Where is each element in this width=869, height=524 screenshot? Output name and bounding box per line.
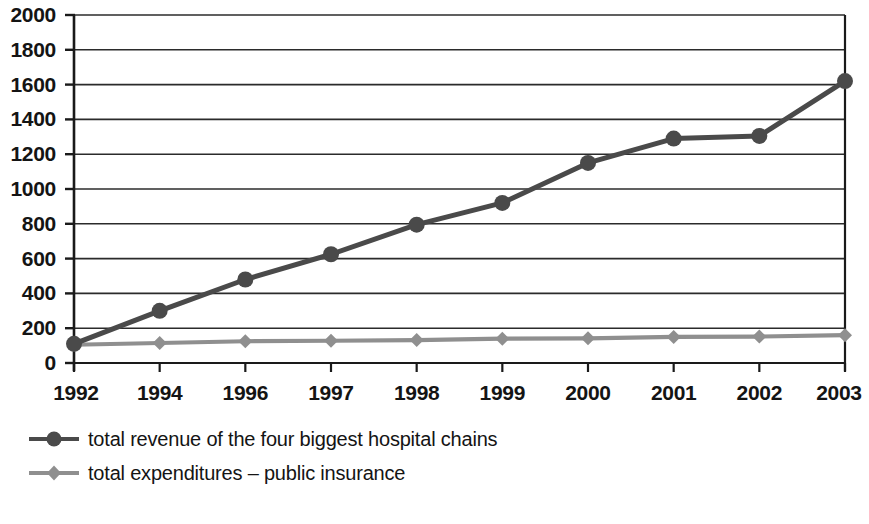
data-point xyxy=(237,271,253,287)
legend-marker-circle-icon xyxy=(28,426,80,452)
line-chart: 0200400600800100012001400160018002000 19… xyxy=(0,0,869,415)
data-point xyxy=(409,217,425,233)
x-tick-label: 1996 xyxy=(223,381,269,404)
y-tick-label: 1200 xyxy=(10,142,56,165)
data-point xyxy=(494,195,510,211)
chart-canvas: 0200400600800100012001400160018002000 19… xyxy=(0,0,869,415)
legend-item-revenue: total revenue of the four biggest hospit… xyxy=(0,424,869,454)
data-point xyxy=(837,73,853,89)
data-point xyxy=(751,128,767,144)
x-tick-label: 2001 xyxy=(651,381,697,404)
chart-page: 0200400600800100012001400160018002000 19… xyxy=(0,0,869,524)
x-axis-tick-labels: 1992199419961997199819992000200120022003 xyxy=(53,381,862,404)
y-tick-label: 400 xyxy=(22,281,56,304)
data-point xyxy=(66,336,82,352)
y-tick-label: 1400 xyxy=(10,107,56,130)
legend-label-revenue: total revenue of the four biggest hospit… xyxy=(88,428,497,451)
x-tick-label: 1992 xyxy=(53,381,99,404)
y-tick-label: 2000 xyxy=(10,3,56,26)
x-tick-label: 1997 xyxy=(308,381,354,404)
data-point xyxy=(666,131,682,147)
y-tick-label: 1000 xyxy=(10,177,56,200)
legend-marker-diamond-icon xyxy=(28,460,80,486)
x-tick-label: 2003 xyxy=(816,381,862,404)
data-point xyxy=(580,155,596,171)
y-tick-label: 0 xyxy=(45,351,56,374)
data-point xyxy=(152,303,168,319)
y-tick-label: 200 xyxy=(22,316,56,339)
legend-item-expenditures: total expenditures – public insurance xyxy=(0,458,869,488)
x-axis-ticks xyxy=(74,363,845,372)
y-tick-label: 800 xyxy=(22,212,56,235)
chart-legend: total revenue of the four biggest hospit… xyxy=(0,424,869,492)
x-tick-label: 1998 xyxy=(394,381,440,404)
x-tick-label: 2000 xyxy=(565,381,611,404)
y-tick-label: 600 xyxy=(22,247,56,270)
y-tick-label: 1600 xyxy=(10,73,56,96)
data-point xyxy=(323,246,339,262)
x-tick-label: 1994 xyxy=(137,381,183,404)
x-tick-label: 2002 xyxy=(737,381,783,404)
y-tick-label: 1800 xyxy=(10,38,56,61)
legend-label-expenditures: total expenditures – public insurance xyxy=(88,462,405,485)
y-axis-tick-labels: 0200400600800100012001400160018002000 xyxy=(10,3,56,374)
x-tick-label: 1999 xyxy=(480,381,526,404)
